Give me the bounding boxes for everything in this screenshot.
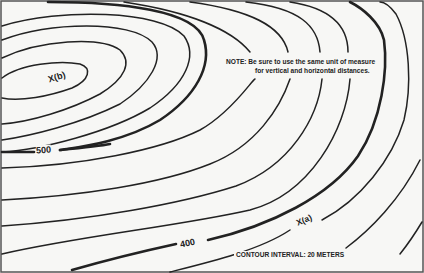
- contour-line: [2, 42, 126, 124]
- measurement-note: NOTE: Be sure to use the same unit of me…: [224, 56, 377, 76]
- contour-label-500: 500: [36, 144, 52, 155]
- note-line-2: for vertical and horizontal distances.: [226, 66, 375, 75]
- contour-line-400: [72, 244, 176, 270]
- contour-line: [2, 63, 88, 100]
- note-line-1: NOTE: Be sure to use the same unit of me…: [226, 58, 375, 65]
- contour-line: [400, 222, 422, 254]
- contour-lines: [0, 0, 424, 273]
- contour-line: [346, 160, 420, 248]
- contour-map: X(b) 500 400 X(a) NOTE: Be sure to use t…: [0, 0, 424, 273]
- contour-line: [246, 2, 320, 52]
- contour-line: [322, 2, 409, 220]
- contour-interval-label: CONTOUR INTERVAL: 20 METERS: [234, 251, 346, 258]
- contour-line: [2, 14, 190, 152]
